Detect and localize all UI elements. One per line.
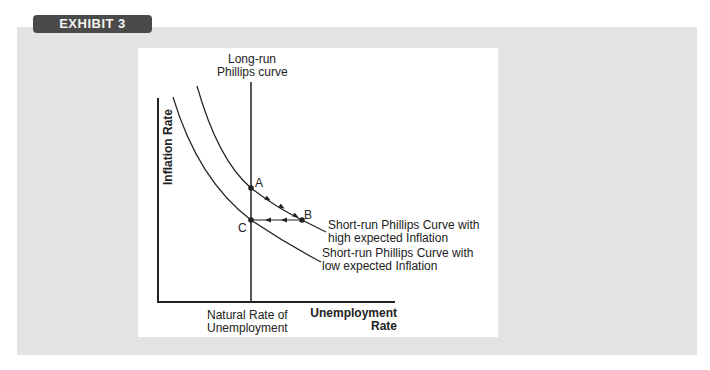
srpc-low-label: Short-run Phillips Curve with low expect… bbox=[322, 247, 473, 273]
lrpc-label-2: Phillips curve bbox=[217, 66, 288, 79]
point-c-label: C bbox=[238, 222, 247, 235]
arrow-a-to-b-3 bbox=[284, 209, 296, 216]
srpc-low-label-line2: low expected Inflation bbox=[322, 260, 473, 273]
x-axis-label-line2: Rate bbox=[307, 320, 397, 333]
natural-rate-label: Natural Rate of Unemployment bbox=[207, 309, 288, 335]
point-a bbox=[248, 185, 254, 191]
point-b-label: B bbox=[304, 209, 312, 222]
x-axis-label: Unemployment Rate bbox=[307, 307, 397, 333]
y-axis-label: Inflation Rate bbox=[161, 107, 177, 187]
point-c bbox=[248, 217, 254, 223]
lrpc-label-line2: Phillips curve bbox=[217, 66, 288, 79]
srpc-low-expected bbox=[173, 97, 321, 262]
natural-rate-line2: Unemployment bbox=[207, 322, 288, 335]
srpc-high-label: Short-run Phillips Curve with high expec… bbox=[328, 219, 479, 245]
srpc-high-label-line2: high expected Inflation bbox=[328, 232, 479, 245]
point-a-label: A bbox=[255, 177, 263, 190]
